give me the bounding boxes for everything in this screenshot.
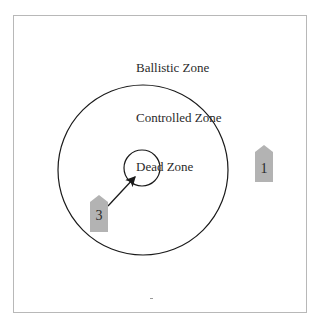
ballistic-zone-label: Ballistic Zone xyxy=(136,60,210,75)
unit-3-label: 3 xyxy=(96,208,103,223)
unit-1-marker[interactable]: 1 xyxy=(255,145,273,182)
unit-1-label: 1 xyxy=(261,161,268,176)
dead-zone-label: Dead Zone xyxy=(136,159,194,174)
unit-3-marker[interactable]: 3 xyxy=(90,195,108,232)
movement-arrow xyxy=(108,177,135,206)
stray-mark xyxy=(150,298,153,299)
controlled-zone-label: Controlled Zone xyxy=(136,110,222,125)
zone-diagram: Ballistic Zone Controlled Zone Dead Zone… xyxy=(0,0,323,328)
